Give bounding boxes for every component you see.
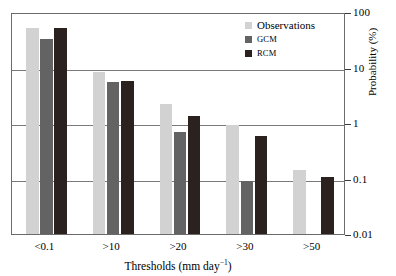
legend-swatch-observations xyxy=(245,22,252,29)
bar-rcm-3 xyxy=(255,136,268,234)
bar-observations-3 xyxy=(226,125,239,234)
x-axis-title-base: Thresholds (mm day xyxy=(124,260,219,272)
y-axis-tick-label: 10 xyxy=(353,63,364,74)
legend-swatch-gcm xyxy=(245,36,252,43)
y-axis-tick xyxy=(345,180,351,181)
y-axis-tick-label: 0.01 xyxy=(353,229,373,240)
x-axis-title-tail: ) xyxy=(228,260,232,272)
legend-swatch-rcm xyxy=(245,50,252,57)
y-axis-tick xyxy=(345,124,351,125)
bar-observations-4 xyxy=(293,170,306,234)
y-axis-tick xyxy=(345,69,351,70)
legend-label-rcm: RCM xyxy=(257,47,277,59)
bar-rcm-4 xyxy=(321,177,334,234)
bar-rcm-1 xyxy=(121,81,134,234)
legend: Observations GCM RCM xyxy=(245,18,345,60)
x-axis-tick-label: >10 xyxy=(78,240,145,252)
legend-label-observations: Observations xyxy=(257,19,315,31)
y-axis-tick-label: 0.1 xyxy=(353,174,367,185)
x-axis-tick-label: >20 xyxy=(145,240,212,252)
y-axis-tick xyxy=(345,235,351,236)
precipitation-probability-chart: 1001010.10.01<0.1>10>20>30>50 Probabilit… xyxy=(0,0,396,276)
bar-gcm-1 xyxy=(107,82,120,234)
legend-label-gcm: GCM xyxy=(257,33,277,45)
bar-gcm-3 xyxy=(241,181,254,234)
x-axis-title-exponent: −1 xyxy=(220,258,228,267)
bar-gcm-0 xyxy=(40,39,53,234)
x-axis-tick-label: >30 xyxy=(211,240,278,252)
y-axis-tick xyxy=(345,13,351,14)
bar-observations-2 xyxy=(160,104,173,234)
bar-rcm-2 xyxy=(188,116,201,234)
x-axis-tick-label: >50 xyxy=(278,240,345,252)
bar-rcm-0 xyxy=(54,28,67,234)
y-axis-title: Probability (%) xyxy=(366,0,378,96)
y-axis-tick-label: 1 xyxy=(353,118,359,129)
legend-item-gcm[interactable]: GCM xyxy=(245,32,345,46)
x-axis-tick-label: <0.1 xyxy=(11,240,78,252)
bar-observations-0 xyxy=(26,28,39,234)
bar-gcm-2 xyxy=(174,132,187,234)
legend-item-observations[interactable]: Observations xyxy=(245,18,345,32)
x-axis-title: Thresholds (mm day−1) xyxy=(0,256,356,273)
legend-item-rcm[interactable]: RCM xyxy=(245,46,345,60)
bar-observations-1 xyxy=(93,72,106,234)
